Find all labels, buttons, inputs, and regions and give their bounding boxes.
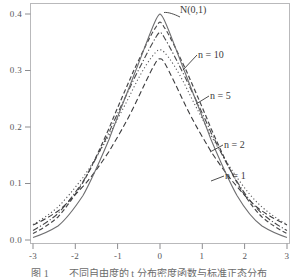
x-axis-ticks — [33, 244, 287, 250]
figure-container: 0.4 0.3 0.2 0.1 0.0 -3 -2 -1 0 1 2 3 N(0… — [0, 0, 298, 277]
density-plot-svg — [0, 0, 298, 277]
x-tick-label-6: 3 — [277, 251, 297, 261]
plot-frame — [31, 4, 290, 244]
y-axis-ticks — [25, 14, 31, 240]
curve-label-n10: n = 10 — [198, 49, 224, 60]
y-tick-label-4: 0.0 — [0, 235, 22, 245]
y-tick-label-2: 0.2 — [0, 122, 22, 132]
curve-label-n2: n = 2 — [224, 139, 245, 150]
x-tick-label-3: 0 — [150, 251, 170, 261]
x-tick-label-4: 1 — [192, 251, 212, 261]
x-tick-label-1: -2 — [65, 251, 85, 261]
y-tick-label-0: 0.4 — [0, 9, 22, 19]
curve-label-n1: n = 1 — [225, 170, 246, 181]
curve-label-normal: N(0,1) — [180, 4, 206, 15]
x-tick-label-5: 2 — [235, 251, 255, 261]
x-tick-label-0: -3 — [23, 251, 43, 261]
y-tick-label-1: 0.3 — [0, 65, 22, 75]
y-tick-label-3: 0.1 — [0, 178, 22, 188]
figure-caption: 图 1 不同自由度的 t 分布密度函数与标准正态分布 — [0, 268, 298, 277]
curve-label-n5: n = 5 — [210, 90, 231, 101]
x-tick-label-2: -1 — [108, 251, 128, 261]
